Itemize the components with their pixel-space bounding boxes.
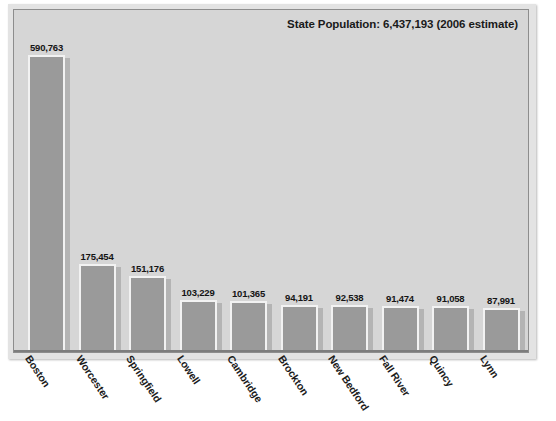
bar-body xyxy=(281,305,318,352)
bar-value-label: 151,176 xyxy=(131,263,164,274)
x-axis-category-labels: BostonWorcesterSpringfieldLowellCambridg… xyxy=(13,353,529,421)
bar-value-label: 101,365 xyxy=(232,288,265,299)
bar-body xyxy=(483,308,520,352)
x-label-boston: Boston xyxy=(23,353,53,389)
bar-body xyxy=(129,276,166,352)
bar-body xyxy=(432,306,469,352)
bar-body xyxy=(331,305,368,352)
bar-body xyxy=(382,306,419,352)
bar-boston: 590,763 xyxy=(28,55,65,352)
chart-title: State Population: 6,437,193 (2006 estima… xyxy=(287,18,518,30)
x-label-lowell: Lowell xyxy=(175,353,203,386)
bar-value-label: 103,229 xyxy=(182,287,215,298)
x-axis-line xyxy=(14,350,528,352)
bar-value-label: 91,474 xyxy=(386,293,414,304)
chart-figure: State Population: 6,437,193 (2006 estima… xyxy=(0,0,556,421)
bar-value-label: 87,991 xyxy=(487,295,515,306)
bar-worcester: 175,454 xyxy=(79,264,116,352)
bar-value-label: 590,763 xyxy=(30,42,63,53)
bar-springfield: 151,176 xyxy=(129,276,166,352)
bar-body xyxy=(28,55,65,352)
x-label-brockton: Brockton xyxy=(276,353,311,397)
chart-plot-area: State Population: 6,437,193 (2006 estima… xyxy=(13,9,529,353)
bar-body xyxy=(230,301,267,352)
bar-value-label: 92,538 xyxy=(336,292,364,303)
x-label-new-bedford: New Bedford xyxy=(326,353,372,412)
bar-quincy: 91,058 xyxy=(432,306,469,352)
bar-value-label: 175,454 xyxy=(81,251,114,262)
bar-value-label: 91,058 xyxy=(437,293,465,304)
bar-lowell: 103,229 xyxy=(180,300,217,352)
bar-brockton: 94,191 xyxy=(281,305,318,352)
x-label-cambridge: Cambridge xyxy=(225,353,265,404)
x-label-worcester: Worcester xyxy=(74,353,112,401)
bar-body xyxy=(180,300,217,352)
bar-body xyxy=(79,264,116,352)
bar-new-bedford: 92,538 xyxy=(331,305,368,352)
bar-cambridge: 101,365 xyxy=(230,301,267,352)
bar-lynn: 87,991 xyxy=(483,308,520,352)
bar-value-label: 94,191 xyxy=(285,292,313,303)
x-label-quincy: Quincy xyxy=(427,353,457,389)
x-label-fall-river: Fall River xyxy=(377,353,413,398)
x-label-lynn: Lynn xyxy=(478,353,502,380)
bar-fall-river: 91,474 xyxy=(382,306,419,352)
x-label-springfield: Springfield xyxy=(124,353,164,404)
